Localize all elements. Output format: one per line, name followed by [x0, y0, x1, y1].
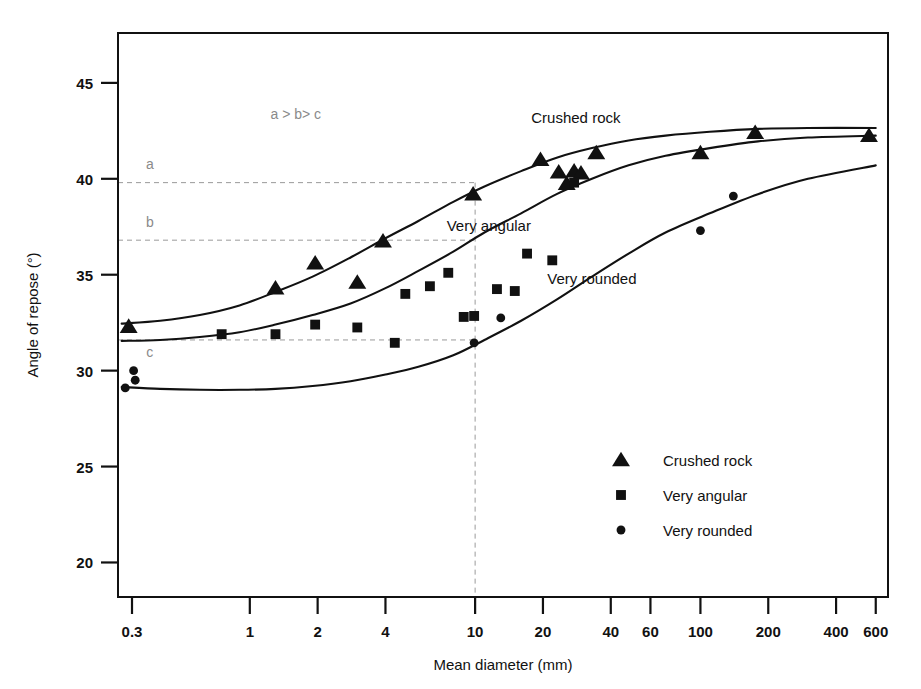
legend-label-very-rounded: Very rounded [663, 522, 752, 539]
y-tick-label: 35 [76, 267, 93, 284]
x-tick-label: 2 [313, 623, 321, 640]
data-point [510, 286, 520, 296]
annotations-group: a > b> c [271, 106, 322, 122]
x-tick-label: 100 [688, 623, 713, 640]
x-tick-label: 400 [824, 623, 849, 640]
annotation-0: a > b> c [271, 106, 322, 122]
data-point [469, 311, 479, 321]
chart-canvas: 202530354045 0.312410204060100200400600 … [0, 0, 921, 689]
data-point [425, 281, 435, 291]
legend-label-crushed-rock: Crushed rock [663, 452, 753, 469]
data-point [459, 312, 469, 322]
data-point [729, 192, 738, 201]
data-point [400, 289, 410, 299]
x-tick-label: 60 [642, 623, 659, 640]
x-tick-label: 4 [381, 623, 390, 640]
x-tick-label: 1 [246, 623, 254, 640]
x-tick-label: 200 [756, 623, 781, 640]
data-point [470, 338, 479, 347]
guide-label-c: c [146, 344, 153, 360]
data-point [569, 178, 579, 188]
legend-label-very-angular: Very angular [663, 487, 747, 504]
y-tick-label: 45 [76, 75, 93, 92]
data-point [121, 383, 130, 392]
x-tick-label: 0.3 [122, 623, 143, 640]
data-point [271, 329, 281, 339]
legend-marker-circle [617, 526, 626, 535]
curve-label-very-rounded: Very rounded [547, 270, 636, 287]
data-point [310, 320, 320, 330]
data-point [492, 284, 502, 294]
data-point [390, 338, 400, 348]
data-point [443, 268, 453, 278]
chart-background [0, 0, 921, 689]
y-tick-label: 40 [76, 171, 93, 188]
data-point [352, 323, 362, 333]
data-point [522, 249, 532, 259]
x-tick-label: 600 [863, 623, 888, 640]
y-tick-label: 20 [76, 554, 93, 571]
guide-label-b: b [146, 214, 154, 230]
x-tick-label: 20 [535, 623, 552, 640]
data-point [496, 313, 505, 322]
data-point [131, 376, 140, 385]
y-tick-label: 25 [76, 459, 93, 476]
y-axis-title: Angle of repose (°) [24, 252, 41, 377]
x-tick-label: 40 [602, 623, 619, 640]
legend-marker-square [616, 490, 626, 500]
data-point [217, 329, 227, 339]
data-point [129, 366, 138, 375]
curve-label-crushed-rock: Crushed rock [531, 109, 621, 126]
angle-of-repose-chart: 202530354045 0.312410204060100200400600 … [0, 0, 921, 689]
data-point [547, 255, 557, 265]
data-point [696, 226, 705, 235]
curve-label-very-angular: Very angular [447, 217, 531, 234]
y-tick-label: 30 [76, 363, 93, 380]
guide-label-a: a [146, 156, 154, 172]
x-axis-title: Mean diameter (mm) [433, 656, 572, 673]
x-tick-label: 10 [467, 623, 484, 640]
